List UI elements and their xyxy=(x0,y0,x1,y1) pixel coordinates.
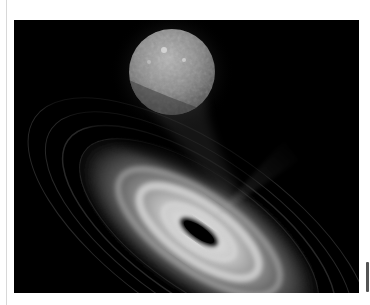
space-illustration xyxy=(14,20,359,293)
edge-mark xyxy=(366,262,369,292)
illustration-frame xyxy=(14,20,359,293)
page-edge-line xyxy=(6,0,7,305)
